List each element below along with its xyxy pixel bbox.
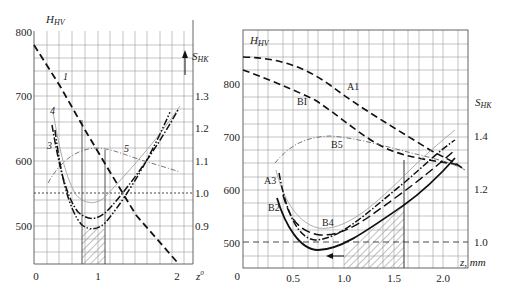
right-ytick: 700 bbox=[224, 131, 241, 143]
right-y2tick: 1.2 bbox=[474, 183, 488, 195]
left-y2tick: 1.2 bbox=[195, 122, 209, 134]
left-y2tick: 1.3 bbox=[195, 90, 209, 102]
left-ytick: 800 bbox=[16, 26, 33, 38]
right-ytick: 600 bbox=[224, 184, 241, 196]
right-ytick: 500 bbox=[224, 237, 241, 249]
left-chart: 1 4 3 5 HHV SHK z0 800 700 600 500 1.3 1… bbox=[16, 13, 210, 282]
right-curve-label-B4: B4 bbox=[322, 217, 334, 228]
right-curve-B5 bbox=[275, 136, 465, 170]
right-y2tick: 1.4 bbox=[474, 130, 488, 142]
left-y2tick: 0.9 bbox=[195, 220, 209, 232]
right-xtick: 0.5 bbox=[286, 272, 300, 284]
right-arrow-left-icon bbox=[326, 253, 333, 259]
left-ytick: 700 bbox=[16, 90, 33, 102]
right-chart: A1 BI B5 A3 B2 B4 HHV SHK z, mm 800 700 … bbox=[224, 30, 493, 284]
left-curve-label-4: 4 bbox=[50, 105, 55, 116]
right-xlabel: z, mm bbox=[459, 256, 486, 268]
left-xtick: 1 bbox=[95, 270, 101, 282]
right-y2label: SHK bbox=[475, 96, 492, 110]
left-y2tick: 1.1 bbox=[195, 155, 209, 167]
right-y2tick: 1.0 bbox=[474, 236, 488, 248]
left-xtick: 2 bbox=[174, 270, 180, 282]
right-xtick: 2.0 bbox=[436, 272, 450, 284]
left-ylabel: HHV bbox=[45, 13, 66, 27]
left-curve-3 bbox=[52, 110, 178, 218]
right-xtick: 1.5 bbox=[387, 272, 401, 284]
right-ylabel: HHV bbox=[249, 34, 270, 48]
right-curve-label-B2: B2 bbox=[268, 202, 280, 213]
left-ytick: 600 bbox=[16, 155, 33, 167]
left-curve-1 bbox=[34, 45, 177, 262]
left-curve-label-3: 3 bbox=[46, 140, 52, 151]
left-xlabel: z0 bbox=[195, 269, 204, 282]
left-shaded-region bbox=[82, 229, 105, 264]
right-curve-label-B1: BI bbox=[297, 96, 307, 107]
right-curve-label-A1: A1 bbox=[347, 81, 359, 92]
right-shaded-region bbox=[344, 205, 404, 268]
left-curve-label-1: 1 bbox=[63, 71, 68, 82]
left-ytick: 500 bbox=[16, 220, 33, 232]
left-curve-label-5: 5 bbox=[124, 143, 129, 154]
right-ytick: 0 bbox=[235, 270, 241, 282]
right-curve-label-B5: B5 bbox=[331, 139, 343, 150]
left-xtick: 0 bbox=[33, 270, 39, 282]
right-curve-label-A3: A3 bbox=[264, 175, 276, 186]
right-frame bbox=[243, 30, 468, 268]
right-ytick: 800 bbox=[224, 78, 241, 90]
left-y2tick: 1.0 bbox=[195, 187, 209, 199]
right-grid bbox=[243, 30, 468, 268]
left-y2label: SHK bbox=[192, 50, 209, 64]
right-curve-A1 bbox=[243, 57, 465, 170]
right-xtick: 1.0 bbox=[337, 272, 351, 284]
figure: 1 4 3 5 HHV SHK z0 800 700 600 500 1.3 1… bbox=[0, 0, 509, 295]
